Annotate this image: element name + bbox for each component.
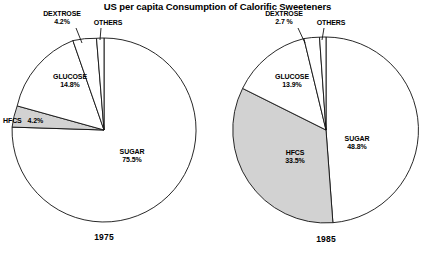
pie-label-1985-hfcs-name: HFCS (286, 149, 305, 156)
pie-chart-1985 (233, 28, 419, 223)
pie-label-1985-sugar: SUGAR 48.8% (330, 135, 384, 152)
pie-label-1975-glucose-name: GLUCOSE (53, 73, 87, 80)
pie-label-1975-hfcs-value: 4.2% (28, 117, 44, 124)
pie-label-1975-sugar: SUGAR 75.5% (105, 148, 159, 165)
pie-label-1985-sugar-value: 48.8% (330, 143, 384, 151)
pie-charts-canvas (0, 0, 435, 253)
pie-label-1985-others: OTHERS (311, 19, 351, 27)
pie-slice-1985-sugar (326, 37, 418, 223)
pie-label-1975-others: OTHERS (88, 19, 128, 27)
pie-label-1985-hfcs: HFCS 33.5% (268, 149, 322, 166)
pie-label-1975-glucose-value: 14.8% (40, 81, 100, 89)
pie-label-1975-dextrose: DEXTROSE 4.2% (36, 10, 88, 27)
pie-label-1985-glucose: GLUCOSE 13.9% (262, 73, 322, 90)
pie-label-1985-dextrose-value: 2.7 % (258, 18, 310, 26)
pie-label-1975-others-name: OTHERS (94, 19, 123, 26)
sweetener-consumption-figure: US per capita Consumption of Calorific S… (0, 0, 435, 253)
pie-label-1985-others-name: OTHERS (317, 19, 346, 26)
pie-label-1975-dextrose-name: DEXTROSE (43, 10, 81, 17)
pie-label-1985-glucose-value: 13.9% (262, 81, 322, 89)
pie-year-label-1985: 1985 (299, 234, 353, 244)
pie-label-1985-sugar-name: SUGAR (345, 135, 370, 142)
pie-label-1985-dextrose-name: DEXTROSE (265, 10, 303, 17)
pie-label-1975-hfcs-name: HFCS (3, 117, 22, 124)
pie-label-1975-dextrose-value: 4.2% (36, 18, 88, 26)
pie-label-1985-hfcs-value: 33.5% (268, 157, 322, 165)
pie-label-1975-hfcs: HFCS 4.2% (3, 117, 65, 125)
pie-label-1985-glucose-name: GLUCOSE (275, 73, 309, 80)
pie-label-1975-sugar-value: 75.5% (105, 156, 159, 164)
pie-year-label-1975: 1975 (77, 232, 131, 242)
pie-label-1975-glucose: GLUCOSE 14.8% (40, 73, 100, 90)
pie-label-1975-sugar-name: SUGAR (120, 148, 145, 155)
pie-label-1985-dextrose: DEXTROSE 2.7 % (258, 10, 310, 27)
